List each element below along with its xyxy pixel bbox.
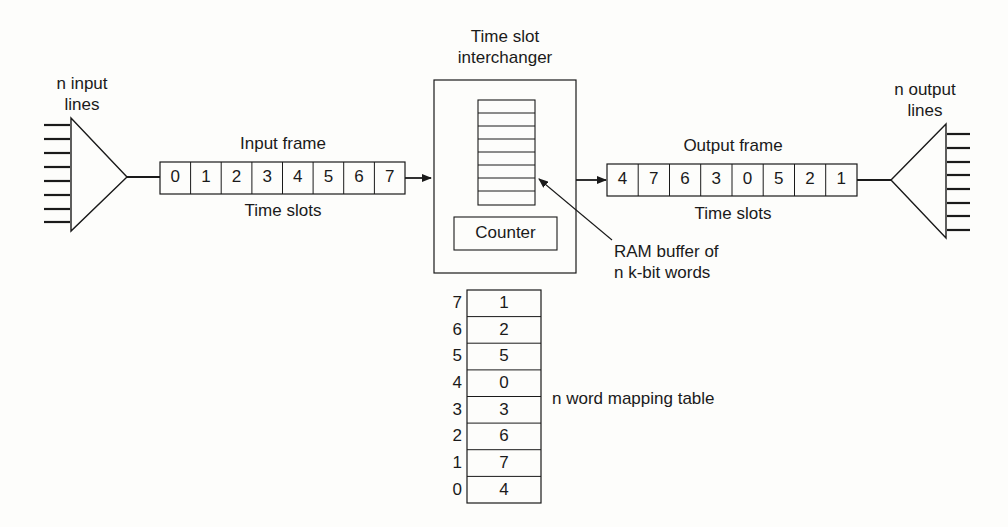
input-slot: 2 (221, 167, 252, 187)
input-slot: 3 (252, 167, 283, 187)
mapping-value: 3 (467, 400, 541, 420)
tsi-title-line2: interchanger (458, 47, 553, 68)
input-slot: 1 (191, 167, 222, 187)
input-lines-label: n input lines (56, 73, 107, 115)
output-lines-label-line1: n output (894, 79, 955, 100)
mapping-index: 3 (448, 400, 462, 420)
ram-buffer-label-line2: n k-bit words (614, 262, 719, 283)
mapping-index: 7 (448, 293, 462, 313)
output-slot: 7 (638, 169, 669, 189)
mapping-value: 4 (467, 480, 541, 500)
input-frame-subtitle: Time slots (245, 200, 322, 221)
output-slot: 0 (732, 169, 763, 189)
mapping-index: 5 (448, 346, 462, 366)
mapping-index: 0 (448, 480, 462, 500)
mapping-value: 0 (467, 373, 541, 393)
ram-buffer-label-line1: RAM buffer of (614, 241, 719, 262)
counter-label: Counter (454, 223, 557, 243)
mapping-value: 5 (467, 346, 541, 366)
ram-buffer-label: RAM buffer of n k-bit words (614, 241, 719, 283)
input-lines (44, 125, 70, 222)
mapping-index: 1 (448, 453, 462, 473)
output-slot: 1 (826, 169, 857, 189)
diagram-canvas (0, 0, 1008, 527)
output-slot: 4 (607, 169, 638, 189)
output-slot: 3 (701, 169, 732, 189)
mapping-table-label: n word mapping table (552, 388, 715, 409)
input-lines-label-line1: n input (56, 73, 107, 94)
input-slot: 7 (374, 167, 405, 187)
output-lines-label: n output lines (894, 79, 955, 121)
input-slot: 4 (283, 167, 314, 187)
input-slot: 5 (313, 167, 344, 187)
output-slot: 2 (795, 169, 826, 189)
tsi-title-line1: Time slot (458, 26, 553, 47)
mapping-value: 6 (467, 426, 541, 446)
mapping-index: 6 (448, 320, 462, 340)
tsi-box (434, 80, 576, 273)
output-frame-subtitle: Time slots (695, 203, 772, 224)
mapping-value: 2 (467, 320, 541, 340)
input-frame-title: Input frame (240, 133, 326, 154)
output-demultiplexer (891, 124, 946, 238)
mapping-value: 7 (467, 453, 541, 473)
mapping-value: 1 (467, 293, 541, 313)
tsi-title: Time slot interchanger (458, 26, 553, 68)
input-multiplexer (71, 118, 127, 231)
input-slot: 0 (160, 167, 191, 187)
mapping-index: 2 (448, 426, 462, 446)
output-frame-title: Output frame (683, 135, 782, 156)
input-slot: 6 (344, 167, 375, 187)
output-slot: 5 (763, 169, 794, 189)
output-slot: 6 (670, 169, 701, 189)
output-lines-label-line2: lines (894, 100, 955, 121)
mapping-index: 4 (448, 373, 462, 393)
output-lines (947, 134, 970, 230)
input-lines-label-line2: lines (56, 94, 107, 115)
